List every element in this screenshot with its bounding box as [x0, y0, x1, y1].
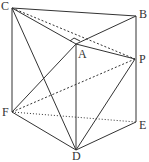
- edge-FD: [12, 112, 76, 150]
- label-D: D: [72, 150, 81, 162]
- label-P: P: [139, 53, 146, 65]
- label-C: C: [1, 0, 9, 12]
- prism-diagram: C B A P F E D: [0, 0, 149, 162]
- edge-FP-dashed: [12, 59, 135, 112]
- edge-CB: [12, 8, 136, 16]
- edge-AB: [76, 16, 136, 44]
- label-A: A: [78, 48, 87, 60]
- edge-FA: [12, 44, 76, 112]
- label-F: F: [2, 106, 9, 118]
- label-E: E: [139, 119, 146, 131]
- diagram-canvas: [0, 0, 149, 162]
- edge-CA: [12, 8, 76, 44]
- edge-FE-dashed: [12, 112, 136, 122]
- label-B: B: [139, 8, 147, 20]
- right-angle-mark: [70, 38, 80, 41]
- edge-CP-dashed: [12, 8, 135, 59]
- edge-CD: [12, 8, 76, 150]
